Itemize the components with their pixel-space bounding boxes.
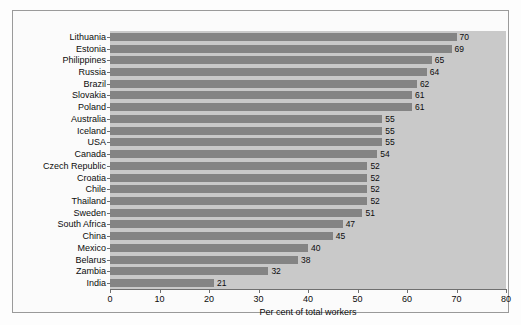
category-label: Mexico	[77, 243, 106, 252]
figure-frame: Lithuania70Estonia69Philippines65Russia6…	[12, 10, 509, 313]
bar-value-label: 45	[336, 232, 345, 241]
bar-row: Zambia32	[110, 266, 506, 278]
category-label: Russia	[78, 68, 106, 77]
x-axis-tick-label: 60	[402, 295, 412, 304]
bar	[110, 68, 427, 76]
category-label: Iceland	[77, 126, 106, 135]
x-axis-tick-label: 80	[501, 295, 511, 304]
bar-row: Estonia69	[110, 43, 506, 55]
bar-row: China45	[110, 230, 506, 242]
bar-value-label: 40	[311, 244, 320, 253]
bar-value-label: 65	[435, 56, 444, 65]
bar-value-label: 61	[415, 91, 424, 100]
x-axis-tick	[358, 289, 359, 293]
bar-row: USA55	[110, 137, 506, 149]
bar-value-label: 55	[385, 138, 394, 147]
x-axis-tick	[308, 289, 309, 293]
category-label: Thailand	[71, 197, 106, 206]
category-label: USA	[87, 138, 106, 147]
category-label: Lithuania	[69, 32, 106, 41]
category-label: China	[82, 232, 106, 241]
bar-row: Chile52	[110, 183, 506, 195]
bar-row: Lithuania70	[110, 31, 506, 43]
x-axis-tick-label: 50	[352, 295, 362, 304]
bar-value-label: 52	[370, 162, 379, 171]
bar-row: Russia64	[110, 66, 506, 78]
bar-value-label: 55	[385, 115, 394, 124]
x-axis-tick	[110, 289, 111, 293]
bar-value-label: 64	[430, 68, 439, 77]
bar-row: Brazil62	[110, 78, 506, 90]
bar	[110, 232, 333, 240]
category-label: Chile	[85, 185, 106, 194]
bar-value-label: 21	[217, 279, 226, 288]
bar	[110, 279, 214, 287]
bar-row: India21	[110, 277, 506, 289]
x-axis-tick	[209, 289, 210, 293]
bar-row: Canada54	[110, 148, 506, 160]
x-axis-tick-label: 40	[303, 295, 313, 304]
category-label: Slovakia	[72, 91, 106, 100]
bar-row: Poland61	[110, 101, 506, 113]
bar	[110, 244, 308, 252]
x-axis-tick-label: 30	[253, 295, 263, 304]
bar-row: Croatia52	[110, 172, 506, 184]
category-label: Australia	[71, 114, 106, 123]
category-label: Poland	[78, 103, 106, 112]
bar-value-label: 54	[380, 150, 389, 159]
bar	[110, 33, 457, 41]
bar	[110, 80, 417, 88]
bar	[110, 267, 268, 275]
bar-row: South Africa47	[110, 219, 506, 231]
category-label: Brazil	[83, 79, 106, 88]
x-axis-tick-label: 0	[107, 295, 112, 304]
bar	[110, 197, 367, 205]
x-axis-title: Per cent of total workers	[110, 308, 506, 317]
bar-value-label: 62	[420, 80, 429, 89]
bar-value-label: 52	[370, 197, 379, 206]
chart-page: Lithuania70Estonia69Philippines65Russia6…	[0, 0, 521, 325]
bar-row: Czech Republic52	[110, 160, 506, 172]
bar	[110, 256, 298, 264]
bar-row: Iceland55	[110, 125, 506, 137]
category-label: India	[86, 279, 106, 288]
x-axis-tick	[457, 289, 458, 293]
category-label: Sweden	[73, 208, 106, 217]
bar	[110, 220, 343, 228]
bar	[110, 115, 382, 123]
bar-value-label: 55	[385, 126, 394, 135]
bar-value-label: 52	[370, 185, 379, 194]
bar-value-label: 69	[455, 44, 464, 53]
bar	[110, 162, 367, 170]
bar-row: Thailand52	[110, 195, 506, 207]
bar-value-label: 52	[370, 173, 379, 182]
x-axis-tick	[407, 289, 408, 293]
bar-row: Philippines65	[110, 54, 506, 66]
category-label: Belarus	[75, 255, 106, 264]
bar-row: Slovakia61	[110, 90, 506, 102]
category-label: Canada	[74, 150, 106, 159]
bar	[110, 150, 377, 158]
x-axis-tick	[259, 289, 260, 293]
category-label: Czech Republic	[43, 161, 106, 170]
x-axis-tick-label: 10	[154, 295, 164, 304]
bar-row: Mexico40	[110, 242, 506, 254]
bar-value-label: 70	[460, 33, 469, 42]
category-label: Croatia	[77, 173, 106, 182]
bar	[110, 91, 412, 99]
bar	[110, 56, 432, 64]
bar	[110, 209, 362, 217]
bar-row: Australia55	[110, 113, 506, 125]
bar-value-label: 61	[415, 103, 424, 112]
x-axis-tick-label: 70	[451, 295, 461, 304]
x-axis-tick	[506, 289, 507, 293]
bar	[110, 45, 452, 53]
bar-value-label: 32	[271, 267, 280, 276]
category-label: Philippines	[62, 56, 106, 65]
bar-value-label: 47	[346, 220, 355, 229]
category-label: Zambia	[76, 267, 106, 276]
bar-row: Belarus38	[110, 254, 506, 266]
bar	[110, 103, 412, 111]
x-axis-tick	[160, 289, 161, 293]
bar-value-label: 38	[301, 255, 310, 264]
